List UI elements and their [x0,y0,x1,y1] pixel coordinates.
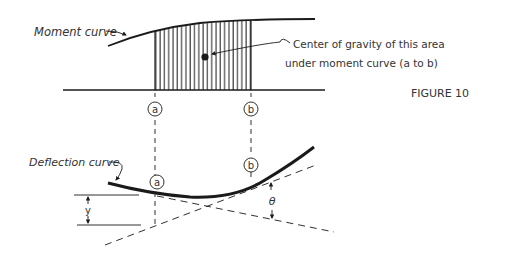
point-b-marker-upper: b [244,102,258,116]
figure-title: FIGURE 10 [411,87,469,100]
figure-10-diagram: Moment curve Center of gravity of this a… [0,0,521,258]
deflection-y-symbol: y [85,205,91,216]
svg-text:b: b [248,160,254,171]
moment-diagram: Moment curve Center of gravity of this a… [34,15,445,90]
deflection-curve [108,147,314,197]
angle-theta-symbol: θ [269,195,276,208]
moment-curve-label: Moment curve [34,25,117,39]
tangent-line-a [157,196,334,232]
angle-theta-dimension: θ [269,183,276,218]
moment-area-hatching [155,15,251,90]
cg-label-line1: Center of gravity of this area [293,38,445,50]
deflection-curve-label: Deflection curve [29,156,120,169]
deflection-y-dimension: y [74,195,141,225]
center-of-gravity-dot [201,53,208,60]
svg-text:a: a [152,104,158,115]
svg-text:b: b [248,104,254,115]
svg-text:a: a [154,177,160,188]
point-a-marker-lower: a [150,175,164,189]
cg-label-line2: under moment curve (a to b) [285,57,438,69]
point-a-marker-upper: a [148,102,162,116]
point-b-marker-lower: b [244,158,258,172]
tangent-line-b [105,165,316,245]
deflection-diagram: Deflection curve a b y θ [29,147,334,245]
